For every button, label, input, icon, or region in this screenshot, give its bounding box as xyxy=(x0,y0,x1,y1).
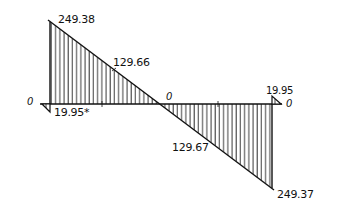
center-zero-label: 0 xyxy=(166,91,172,102)
left-small-value-label: 19.95* xyxy=(54,106,89,119)
shear-diagram: 249.38 129.66 0 0 19.95 0 19.95* 129.67 … xyxy=(0,0,339,216)
bottom-right-value-label: 249.37 xyxy=(277,188,314,201)
right-small-value-label: 19.95 xyxy=(266,85,293,96)
right-zero-label: 0 xyxy=(286,98,292,109)
left-zero-label: 0 xyxy=(27,96,33,107)
top-left-value-label: 249.38 xyxy=(58,13,95,26)
lower-mid-value-label: 129.67 xyxy=(172,141,209,154)
upper-mid-value-label: 129.66 xyxy=(113,56,150,69)
right-small-triangle xyxy=(272,96,281,104)
